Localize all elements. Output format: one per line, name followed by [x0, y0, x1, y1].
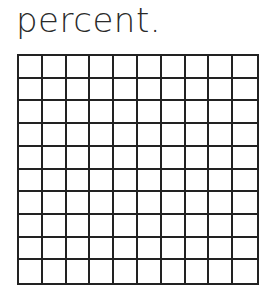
grid-cell	[138, 147, 162, 170]
grid-cell	[67, 170, 91, 193]
grid-cell	[138, 79, 162, 102]
grid-cell	[43, 124, 67, 147]
grid-cell	[233, 56, 257, 79]
grid-cell	[209, 170, 233, 193]
grid-cell	[114, 260, 138, 283]
grid-cell	[19, 170, 43, 193]
grid-cell	[186, 238, 210, 261]
grid-cell	[90, 147, 114, 170]
grid-cell	[209, 56, 233, 79]
grid-cell	[233, 260, 257, 283]
hundred-grid	[17, 54, 259, 285]
grid-cell	[114, 170, 138, 193]
grid-cell	[114, 215, 138, 238]
grid-cell	[43, 238, 67, 261]
grid-cell	[162, 170, 186, 193]
grid-cell	[43, 56, 67, 79]
grid-cell	[67, 56, 91, 79]
grid-cell	[67, 147, 91, 170]
grid-cell	[233, 192, 257, 215]
grid-cell	[138, 215, 162, 238]
grid-cell	[43, 192, 67, 215]
grid-cell	[19, 192, 43, 215]
grid-cell	[19, 79, 43, 102]
grid-cell	[67, 238, 91, 261]
grid-cell	[67, 192, 91, 215]
grid-cell	[138, 192, 162, 215]
grid-cell	[138, 56, 162, 79]
grid-cell	[233, 124, 257, 147]
grid-cell	[162, 215, 186, 238]
grid-cell	[90, 124, 114, 147]
grid-cell	[186, 147, 210, 170]
grid-cell	[90, 192, 114, 215]
grid-cell	[186, 170, 210, 193]
grid-cell	[114, 147, 138, 170]
grid-cell	[209, 260, 233, 283]
grid-cell	[138, 238, 162, 261]
grid-cell	[19, 56, 43, 79]
grid-cell	[162, 124, 186, 147]
grid-cell	[114, 56, 138, 79]
grid-cell	[67, 215, 91, 238]
grid-cell	[186, 56, 210, 79]
grid-cell	[209, 215, 233, 238]
grid-cell	[19, 260, 43, 283]
grid-cell	[90, 215, 114, 238]
grid-cell	[138, 260, 162, 283]
grid-cell	[43, 101, 67, 124]
grid-cell	[209, 147, 233, 170]
grid-cell	[162, 56, 186, 79]
grid-cell	[162, 101, 186, 124]
grid-cell	[186, 101, 210, 124]
grid-cell	[43, 79, 67, 102]
grid-cell	[114, 192, 138, 215]
grid-cell	[209, 101, 233, 124]
grid-cell	[114, 79, 138, 102]
grid-cell	[19, 124, 43, 147]
grid-cell	[43, 215, 67, 238]
grid-cell	[90, 238, 114, 261]
grid-cell	[162, 260, 186, 283]
grid-cell	[19, 215, 43, 238]
grid-cell	[43, 260, 67, 283]
grid-cell	[186, 124, 210, 147]
caption-text: percent.	[16, 0, 161, 42]
grid-cell	[67, 101, 91, 124]
grid-cell	[186, 192, 210, 215]
grid-cell	[19, 147, 43, 170]
grid-cell	[233, 147, 257, 170]
grid-cell	[162, 192, 186, 215]
grid-cell	[186, 79, 210, 102]
grid-cell	[90, 260, 114, 283]
grid-cell	[90, 79, 114, 102]
grid-cell	[114, 238, 138, 261]
grid-cell	[19, 101, 43, 124]
grid-cell	[209, 79, 233, 102]
grid-cell	[162, 238, 186, 261]
grid-cell	[90, 101, 114, 124]
grid-cell	[209, 192, 233, 215]
grid-cell	[90, 56, 114, 79]
grid-cell	[138, 170, 162, 193]
grid-cell	[186, 215, 210, 238]
grid-cell	[233, 170, 257, 193]
grid-cell	[114, 101, 138, 124]
grid-cell	[162, 147, 186, 170]
grid-cell	[209, 238, 233, 261]
grid-cell	[186, 260, 210, 283]
grid-cell	[43, 170, 67, 193]
grid-cell	[209, 124, 233, 147]
grid-cell	[233, 101, 257, 124]
grid-cell	[67, 124, 91, 147]
grid-cell	[233, 215, 257, 238]
grid-cell	[90, 170, 114, 193]
grid-cell	[233, 79, 257, 102]
grid-cell	[138, 124, 162, 147]
grid-cell	[19, 238, 43, 261]
grid-cell	[67, 260, 91, 283]
grid-cell	[162, 79, 186, 102]
grid-cell	[67, 79, 91, 102]
grid-cell	[114, 124, 138, 147]
grid-cell	[138, 101, 162, 124]
